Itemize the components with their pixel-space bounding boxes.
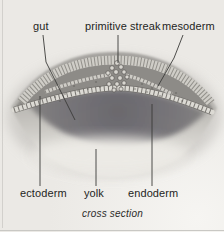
label-primitive-streak: primitive streak — [85, 20, 161, 32]
label-yolk: yolk — [84, 187, 104, 199]
figure-panel: gut primitive streak mesoderm ectoderm y… — [0, 0, 224, 232]
figure-caption: cross section — [82, 208, 143, 219]
label-gut: gut — [33, 20, 49, 32]
label-endoderm: endoderm — [128, 187, 178, 199]
label-mesoderm: mesoderm — [162, 20, 215, 32]
embryo-illustration — [7, 52, 221, 177]
label-ectoderm: ectoderm — [20, 187, 67, 199]
yolk-highlight — [32, 137, 188, 173]
